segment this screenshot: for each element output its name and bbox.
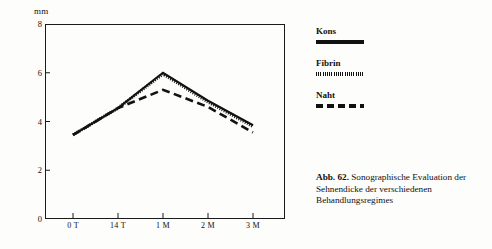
legend-swatch-dashed-icon (316, 104, 364, 108)
x-tick-1M: 1 M (148, 221, 178, 230)
figure-number: Abb. 62. (316, 172, 349, 182)
legend-label-fibrin: Fibrin (316, 58, 341, 68)
legend-item-naht: Naht (316, 90, 436, 114)
legend-label-naht: Naht (316, 90, 335, 100)
y-tick-0: 0 (28, 215, 42, 223)
legend-swatch-dotted-icon (316, 72, 364, 76)
chart-legend: Kons Fibrin Naht (316, 26, 436, 114)
legend-label-kons: Kons (316, 26, 336, 36)
plot-lines (45, 24, 285, 219)
figure-caption: Abb. 62. Sonographische Evaluation der S… (316, 172, 484, 207)
legend-item-fibrin: Fibrin (316, 58, 436, 82)
x-axis-tick-labels: 0 T 14 T 1 M 2 M 3 M (45, 221, 295, 235)
series-line-kons (73, 73, 253, 135)
y-tick-8: 8 (28, 20, 42, 28)
x-tick-3M: 3 M (238, 221, 268, 230)
y-tick-2: 2 (28, 166, 42, 174)
x-tick-2M: 2 M (193, 221, 223, 230)
series-line-fibrin (73, 74, 253, 135)
legend-swatch-solid-icon (316, 40, 364, 44)
x-tick-0T: 0 T (58, 221, 88, 230)
figure-page: mm 8 6 4 2 0 (0, 0, 492, 249)
y-axis-unit-label: mm (34, 6, 48, 16)
chart-container: mm 8 6 4 2 0 (8, 4, 308, 244)
x-tick-14T: 14 T (103, 221, 133, 230)
y-tick-4: 4 (28, 118, 42, 126)
y-tick-6: 6 (28, 69, 42, 77)
legend-item-kons: Kons (316, 26, 436, 50)
y-axis-tick-labels: 8 6 4 2 0 (22, 24, 42, 219)
